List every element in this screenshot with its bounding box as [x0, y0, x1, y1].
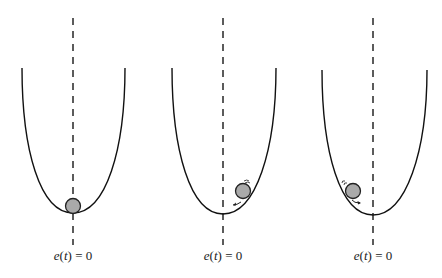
rotation-mark-icon	[244, 180, 250, 183]
panel-2: e(t) = 0	[172, 18, 276, 263]
panel-3: e(t) = 0	[322, 18, 427, 263]
ball	[236, 184, 251, 199]
potential-well-curve	[172, 68, 276, 214]
ball	[66, 199, 81, 214]
panel-1: e(t) = 0	[22, 18, 125, 263]
potential-well-curve	[322, 70, 427, 215]
ball	[346, 184, 361, 199]
equilibrium-label: e(t) = 0	[54, 248, 92, 263]
rotation-mark-icon	[342, 181, 347, 185]
equilibrium-label: e(t) = 0	[204, 248, 242, 263]
potential-well-diagram: e(t) = 0 e(t) = 0 e(t) = 0	[0, 0, 442, 278]
equilibrium-label: e(t) = 0	[354, 248, 392, 263]
motion-arrowhead-icon	[358, 201, 362, 205]
